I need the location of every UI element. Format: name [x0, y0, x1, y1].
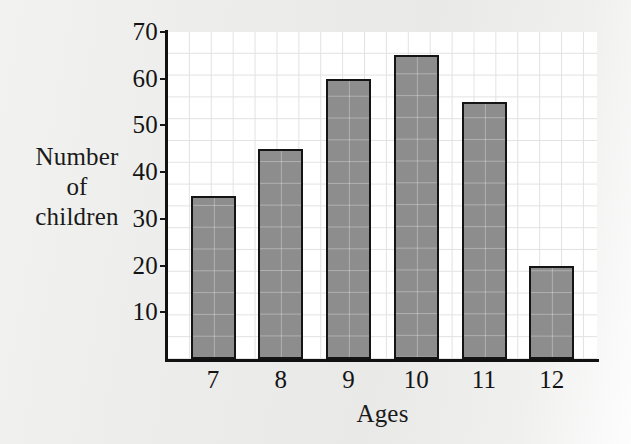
x-tick-label-10: 10: [404, 366, 429, 394]
x-tick-label-11: 11: [472, 366, 496, 394]
y-tick-label-70: 70: [133, 18, 158, 46]
y-axis-title-line-3: children: [18, 202, 136, 232]
bar-age-12: [529, 266, 574, 359]
y-tick-label-10: 10: [133, 298, 158, 326]
x-tick-label-7: 7: [207, 366, 220, 394]
bar-age-9: [326, 79, 371, 359]
y-tick-label-40: 40: [133, 158, 158, 186]
plot-area: [168, 32, 597, 359]
x-tick-label-8: 8: [275, 366, 288, 394]
x-tick-label-9: 9: [342, 366, 355, 394]
x-axis-tick-labels: 789101112: [168, 366, 597, 400]
y-tick-label-20: 20: [133, 252, 158, 280]
bar-age-10: [394, 55, 439, 359]
x-axis-title: Ages: [168, 400, 597, 428]
y-axis-title-line-2: of: [18, 172, 136, 202]
bar-age-11: [462, 102, 507, 359]
bar-chart-figure: Number of children 10203040506070 789101…: [0, 0, 631, 444]
y-axis-title: Number of children: [18, 142, 136, 232]
x-axis-line: [165, 359, 599, 362]
y-tick-label-30: 30: [133, 205, 158, 233]
bar-age-8: [258, 149, 303, 359]
y-axis-title-line-1: Number: [18, 142, 136, 172]
bar-age-7: [191, 196, 236, 360]
y-axis-tick-labels: 10203040506070: [120, 30, 168, 360]
y-tick-label-50: 50: [133, 111, 158, 139]
x-tick-label-12: 12: [539, 366, 564, 394]
y-tick-label-60: 60: [133, 65, 158, 93]
